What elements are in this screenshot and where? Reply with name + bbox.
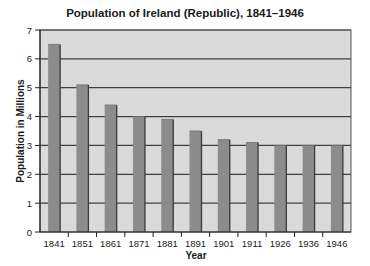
y-tick-label: 3 [27,140,32,151]
x-axis-ticks: 1841185118611871188118911901191119261936… [44,232,348,249]
x-tick-label: 1936 [298,238,319,249]
y-tick-label: 4 [27,111,32,122]
bar [133,117,145,232]
x-tick-label: 1891 [185,238,206,249]
x-tick-label: 1926 [270,238,291,249]
bar-chart: 01234567 1841185118611871188118911901191… [0,0,370,266]
bar [190,131,202,232]
x-tick-label: 1841 [44,238,65,249]
bar [105,105,117,232]
bar [76,85,88,232]
bar [161,119,173,232]
x-tick-label: 1861 [100,238,121,249]
bar [331,145,343,232]
y-tick-label: 2 [27,169,32,180]
x-tick-label: 1911 [242,238,262,249]
x-tick-label: 1851 [72,238,93,249]
bar [48,44,60,232]
x-tick-label: 1881 [157,238,178,249]
bar [303,145,315,232]
y-tick-label: 7 [27,25,32,36]
y-tick-label: 6 [27,53,32,64]
y-tick-label: 0 [27,227,32,238]
bar [246,143,258,232]
bar [274,145,286,232]
x-tick-label: 1946 [326,238,347,249]
x-tick-label: 1871 [128,238,149,249]
bar [218,140,230,232]
x-tick-label: 1901 [213,238,234,249]
y-tick-label: 5 [27,82,32,93]
y-axis-ticks: 01234567 [27,25,40,238]
y-tick-label: 1 [27,198,32,209]
